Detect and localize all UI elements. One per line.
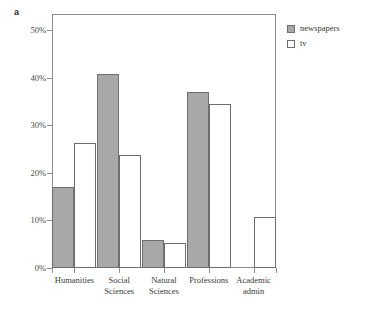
y-axis-tick-label: 0% bbox=[12, 264, 46, 272]
bar-tv-1 bbox=[119, 155, 141, 268]
newspapers-swatch bbox=[287, 25, 295, 33]
x-axis-tick-mark bbox=[74, 268, 75, 273]
bar-tv-2 bbox=[164, 243, 186, 268]
bars-layer bbox=[52, 14, 276, 268]
x-axis-tick-mark bbox=[119, 268, 120, 273]
bar-newspapers-1 bbox=[97, 74, 119, 268]
x-axis-group-label: Academic admin bbox=[227, 275, 280, 297]
legend-label: newspapers bbox=[300, 24, 340, 33]
legend-item-tv: tv bbox=[287, 39, 365, 48]
bar-newspapers-3 bbox=[187, 92, 209, 268]
legend-item-newspapers: newspapers bbox=[287, 24, 365, 33]
tv-swatch bbox=[287, 40, 295, 48]
bar-newspapers-0 bbox=[52, 187, 74, 268]
y-axis-tick-label: 10% bbox=[12, 216, 46, 224]
y-axis-tick-label: 50% bbox=[12, 26, 46, 34]
chart-legend: newspaperstv bbox=[287, 24, 365, 54]
bar-newspapers-2 bbox=[142, 240, 164, 268]
y-axis-tick-label: 30% bbox=[12, 121, 46, 129]
figure: a 0%10%20%30%40%50% newspaperstv Humanit… bbox=[0, 0, 368, 315]
bar-tv-4 bbox=[254, 217, 276, 268]
bar-tv-3 bbox=[209, 104, 231, 268]
x-axis-tick-mark bbox=[164, 268, 165, 273]
bar-tv-0 bbox=[74, 143, 96, 268]
y-axis-tick-label: 40% bbox=[12, 74, 46, 82]
x-axis-tick-mark bbox=[209, 268, 210, 273]
y-axis-tick-label: 20% bbox=[12, 169, 46, 177]
x-axis-edge-tick-mark bbox=[52, 268, 53, 273]
x-axis-tick-mark bbox=[254, 268, 255, 273]
legend-label: tv bbox=[300, 39, 307, 48]
x-axis-edge-tick-mark bbox=[276, 268, 277, 273]
